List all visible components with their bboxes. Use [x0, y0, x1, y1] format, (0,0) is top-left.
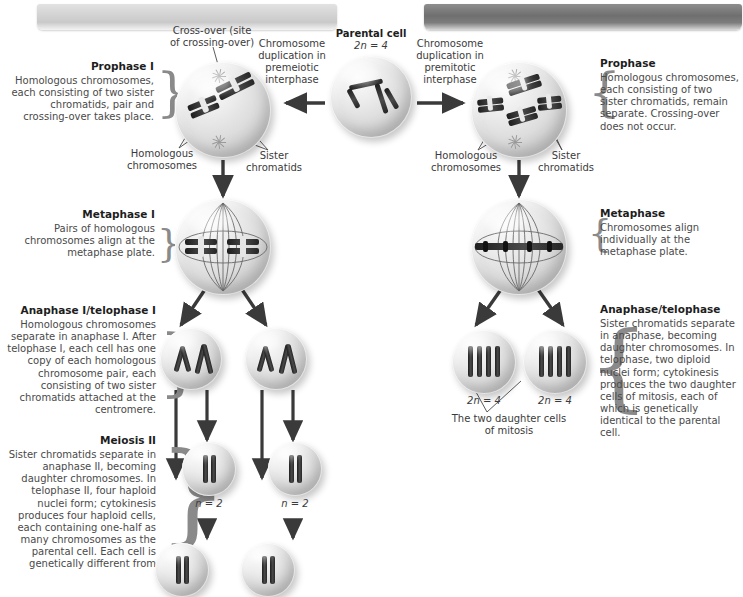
meiosis-2-haploid-cell — [268, 442, 322, 496]
meiosis-ploidy-1: n = 2 — [182, 498, 236, 510]
mitosis-prophase-cell — [471, 62, 567, 158]
heading-prophase: Prophase — [600, 57, 742, 70]
meiosis-homologous-label: Homologous chromosomes — [120, 148, 204, 172]
heading-metaphase-1: Metaphase I — [10, 208, 155, 221]
parental-cell-label: Parental cell 2n = 4 — [329, 28, 413, 52]
body-prophase-1: Homologous chromosomes, each consisting … — [4, 75, 154, 124]
heading-prophase-1: Prophase I — [4, 60, 154, 73]
mitosis-homologous-label: Homologous chromosomes — [424, 150, 508, 174]
text-block-prophase: Prophase Homologous chromosomes, each co… — [600, 57, 742, 133]
body-prophase: Homologous chromosomes, each consisting … — [600, 72, 742, 133]
body-meiosis-2: Sister chromatids separate in anaphase I… — [4, 449, 156, 571]
mitosis-daughter-cell — [523, 330, 587, 394]
meiosis-2-haploid-cell — [155, 543, 209, 597]
meiosis-2-haploid-cell — [182, 442, 236, 496]
aster-icon — [507, 70, 523, 82]
crossover-label: Cross-over (site of crossing-over) — [167, 25, 257, 49]
aster-icon — [211, 136, 227, 148]
text-block-anaphase-telophase: Anaphase/telophase Sister chromatids sep… — [600, 303, 742, 440]
parental-cell — [330, 56, 412, 138]
meiosis-2-haploid-cell — [241, 543, 295, 597]
mitosis-metaphase-cell — [471, 199, 567, 295]
mitosis-ploidy-left: 2n = 4 — [452, 395, 516, 407]
mitosis-sister-label: Sister chromatids — [536, 150, 596, 174]
meiosis-metaphase-1-cell — [175, 199, 271, 295]
meiosis-prophase-1-cell — [175, 62, 271, 158]
meiosis-telophase-1-cell — [245, 328, 307, 390]
banner-mitosis — [424, 4, 742, 30]
text-block-anaphase-telophase-1: Anaphase I/telophase I Homologous chromo… — [4, 304, 156, 416]
mitosis-daughter-cell — [452, 330, 516, 394]
heading-metaphase: Metaphase — [600, 207, 740, 220]
meiosis-telophase-1-cell — [160, 328, 222, 390]
body-anaphase-telophase-1: Homologous chromosomes separate in anaph… — [4, 319, 156, 417]
text-block-meiosis-2: Meiosis II Sister chromatids separate in… — [4, 434, 156, 571]
heading-meiosis-2: Meiosis II — [4, 434, 156, 447]
body-anaphase-telophase: Sister chromatids separate in anaphase, … — [600, 318, 742, 440]
body-metaphase-1: Pairs of homologous chromosomes align at… — [10, 223, 155, 260]
mitosis-ploidy-right: 2n = 4 — [523, 395, 587, 407]
heading-anaphase-telophase: Anaphase/telophase — [600, 303, 742, 316]
mitosis-duplication-label: Chromosome duplication in premitotic int… — [416, 38, 484, 86]
body-metaphase: Chromosomes align individually at the me… — [600, 222, 740, 259]
text-block-metaphase: Metaphase Chromosomes align individually… — [600, 207, 740, 258]
meiosis-ploidy-2: n = 2 — [268, 498, 322, 510]
mitosis-daughter-cells-label: The two daughter cells of mitosis — [449, 413, 569, 437]
meiosis-sister-label: Sister chromatids — [241, 150, 307, 174]
text-block-prophase-1: Prophase I Homologous chromosomes, each … — [4, 60, 154, 124]
meiosis-duplication-label: Chromosome duplication in premeiotic int… — [258, 38, 326, 86]
text-block-metaphase-1: Metaphase I Pairs of homologous chromoso… — [10, 208, 155, 259]
parental-ploidy: 2n = 4 — [354, 40, 388, 51]
heading-anaphase-telophase-1: Anaphase I/telophase I — [4, 304, 156, 317]
aster-icon — [507, 136, 523, 148]
aster-icon — [211, 70, 227, 82]
